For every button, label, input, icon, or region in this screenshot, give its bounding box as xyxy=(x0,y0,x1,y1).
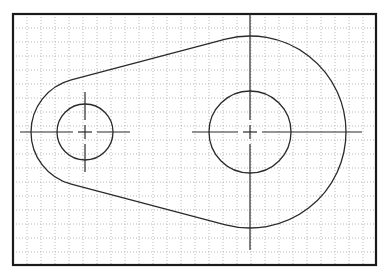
large-hole-centerlines xyxy=(192,14,362,250)
dotted-grid xyxy=(13,14,376,265)
cad-drawing-canvas[interactable] xyxy=(0,0,386,275)
small-hole-centerlines xyxy=(20,92,130,172)
